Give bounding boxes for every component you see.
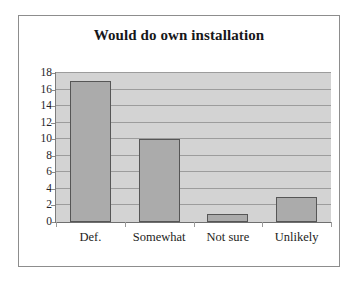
y-axis-tick-labels: 181614121086420 bbox=[19, 73, 52, 222]
y-axis-tick-mark bbox=[51, 90, 55, 91]
y-axis-tick-mark bbox=[51, 123, 55, 124]
bar-not-sure bbox=[207, 214, 248, 222]
y-axis-tick-mark bbox=[51, 172, 55, 173]
x-axis-category-label: Def. bbox=[56, 231, 125, 244]
x-axis-tick-mark bbox=[331, 222, 332, 227]
chart-title: Would do own installation bbox=[19, 27, 339, 44]
x-axis-tick-mark bbox=[262, 222, 263, 227]
y-axis-tick-mark bbox=[51, 156, 55, 157]
x-axis-category-label: Unlikely bbox=[262, 231, 331, 244]
y-axis-tick-mark bbox=[51, 73, 55, 74]
bar-unlikely bbox=[276, 197, 317, 222]
chart-frame: Would do own installation 18161412108642… bbox=[18, 15, 340, 267]
y-axis-tick-mark bbox=[51, 139, 55, 140]
x-axis-tick-mark bbox=[125, 222, 126, 227]
y-axis-tick-mark bbox=[51, 205, 55, 206]
y-axis-tick-mark bbox=[51, 106, 55, 107]
x-axis-tick-mark bbox=[56, 222, 57, 227]
y-axis-tick-mark bbox=[51, 222, 55, 223]
bar-somewhat bbox=[139, 139, 180, 222]
x-axis-tick-mark bbox=[194, 222, 195, 227]
y-axis-line bbox=[55, 72, 56, 223]
x-axis-category-label: Not sure bbox=[194, 231, 263, 244]
y-axis-tick-mark bbox=[51, 189, 55, 190]
bar-def bbox=[70, 81, 111, 222]
plot-area bbox=[56, 73, 331, 222]
x-axis-category-label: Somewhat bbox=[125, 231, 194, 244]
gridline bbox=[56, 72, 331, 73]
